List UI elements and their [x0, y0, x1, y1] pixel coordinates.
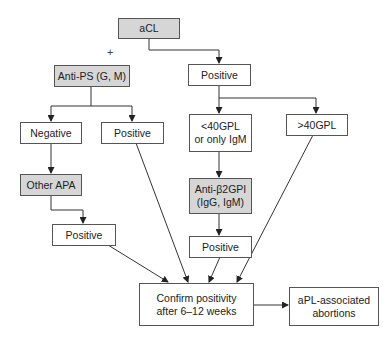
plus-symbol: +: [107, 46, 113, 58]
node-ps-positive: Positive: [101, 122, 164, 144]
edge-pspositive-confirm: [136, 143, 188, 282]
edge-otherapa-positive: [51, 195, 83, 223]
node-other-apa: Other APA: [20, 174, 82, 196]
node-anti-ps: Anti-PS (G, M): [54, 65, 130, 87]
node-anti-b2gpi: Anti-β2GPI (IgG, IgM): [189, 178, 252, 214]
node-acl: aCL: [118, 18, 180, 39]
edge-antips-positive: [91, 106, 132, 121]
node-b2gpi-positive: Positive: [189, 236, 252, 258]
node-confirm-positivity: Confirm positivity after 6–12 weeks: [139, 283, 254, 326]
node-ps-negative: Negative: [20, 122, 82, 144]
node-apa-positive: Positive: [52, 224, 116, 246]
node-lt40gpl: <40GPL or only IgM: [189, 114, 252, 152]
edge-b2gpipositive-confirm: [209, 257, 220, 282]
edge-antips-negative: [51, 86, 91, 121]
edge-apapositive-confirm: [108, 245, 168, 282]
edge-positive-gt40: [219, 98, 316, 113]
node-gt40gpl: >40GPL: [286, 114, 348, 136]
node-apl-abortions: aPL-associated abortions: [289, 287, 379, 326]
edge-acl-positive: [149, 38, 219, 63]
node-acl-positive: Positive: [188, 64, 251, 86]
